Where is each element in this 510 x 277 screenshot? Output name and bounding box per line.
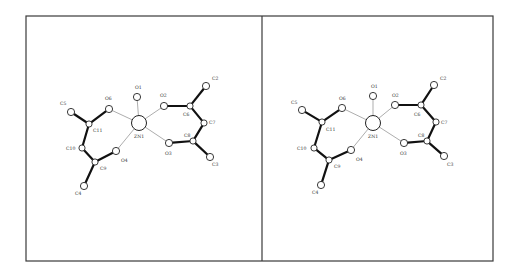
atom-c7 [201,120,207,126]
atom-label-c2: C2 [212,76,219,81]
atom-c11 [319,119,325,125]
covalent-bond-c10-c9 [316,150,326,158]
covalent-bond-o6-c11 [325,110,340,120]
atom-label-c4: C4 [312,190,319,195]
atom-o4 [347,146,354,153]
atom-label-c11: C11 [93,128,102,133]
atom-c11 [86,121,92,127]
covalent-bond-c6-c2 [192,89,204,104]
atom-label-o1: O1 [371,84,378,89]
covalent-bond-c7-c8 [428,125,434,138]
covalent-bond-c9-o4 [332,151,348,158]
atom-c5 [67,108,74,115]
atom-c7 [433,119,439,125]
atom-c2 [430,81,437,88]
atom-label-o6: O6 [339,96,346,101]
atom-o4 [112,147,119,154]
covalent-bond-c9-c4 [85,165,93,183]
atom-label-c5: C5 [60,101,67,106]
atom-label-o1: O1 [135,85,142,90]
covalent-bond-c9-o4 [98,153,113,161]
atom-label-c5: C5 [291,100,298,105]
left-stereo-view: ZN1O1O2O3O4O6C2C3C4C5C6C7C8C9C10C11 [60,76,219,196]
covalent-bond-c11-c10 [315,125,321,145]
coordination-bond-zn1-o4 [118,129,134,148]
covalent-bond-c11-c5 [74,114,86,122]
atom-label-c7: C7 [441,120,448,125]
covalent-bond-c6-c7 [423,107,434,119]
atom-zn1 [366,116,381,131]
atom-label-zn1: ZN1 [134,134,144,139]
atom-label-o3: O3 [165,151,172,156]
atom-label-c10: C10 [66,146,75,151]
atom-label-c9: C9 [100,166,107,171]
coordination-bond-zn1-o1 [137,101,138,116]
atom-label-c4: C4 [75,191,82,196]
atom-label-o4: O4 [356,157,363,162]
atom-label-c8: C8 [418,133,425,138]
covalent-bond-c11-c5 [305,112,319,121]
atom-c4 [80,182,87,189]
atom-o6 [338,104,345,111]
atom-label-c11: C11 [326,127,335,132]
atom-c9 [92,159,98,165]
figure-frame [26,16,493,261]
atom-label-zn1: ZN1 [368,134,378,139]
atom-c3 [440,152,447,159]
atom-o3 [400,139,407,146]
atom-o2 [160,102,167,109]
atom-c10 [311,145,317,151]
atom-label-c3: C3 [447,162,454,167]
atom-o3 [165,139,172,146]
covalent-bond-c9-c4 [322,163,328,182]
covalent-bond-c8-c3 [195,143,207,154]
atom-label-c8: C8 [184,133,191,138]
atom-c5 [298,106,305,113]
coordination-bond-zn1-o6 [345,110,366,120]
coordination-bond-zn1-o2 [145,108,161,119]
atom-c2 [202,82,209,89]
atom-zn1 [132,116,147,131]
covalent-bond-o6-c11 [91,111,106,122]
atom-o6 [105,105,112,112]
atom-c4 [317,181,324,188]
covalent-bond-c6-c7 [192,108,202,120]
atom-label-c6: C6 [414,112,421,117]
coordination-bond-zn1-o4 [353,129,368,147]
atom-label-o6: O6 [105,96,112,101]
atom-label-o2: O2 [160,93,167,98]
atom-c8 [190,138,196,144]
atom-c6 [187,103,193,109]
atom-c3 [206,153,213,160]
atom-c9 [326,157,332,163]
coordination-bond-zn1-o2 [379,107,392,118]
covalent-bond-c6-c2 [423,88,432,102]
atom-o2 [391,101,398,108]
stereo-molecular-diagram: ZN1O1O2O3O4O6C2C3C4C5C6C7C8C9C10C11 ZN1O… [0,0,510,277]
covalent-bond-c7-c8 [195,126,203,139]
atom-label-c2: C2 [440,76,447,81]
covalent-bond-c11-c10 [83,127,88,145]
atom-label-o3: O3 [400,151,407,156]
atom-label-c6: C6 [183,112,190,117]
right-stereo-view: ZN1O1O2O3O4O6C2C3C4C5C6C7C8C9C10C11 [291,76,454,195]
coordination-bond-zn1-o3 [379,127,401,141]
covalent-bond-c8-o3 [408,141,424,142]
atom-label-c7: C7 [209,120,216,125]
atom-label-o4: O4 [121,158,128,163]
atom-c8 [424,138,430,144]
covalent-bond-c10-c9 [84,150,93,159]
atom-o1 [133,93,140,100]
atom-label-c10: C10 [297,146,306,151]
atom-o1 [369,92,376,99]
coordination-bond-zn1-o3 [145,127,166,141]
atom-c10 [79,145,85,151]
coordination-bond-zn1-o6 [112,111,132,120]
covalent-bond-c8-c3 [429,143,441,154]
atom-label-c3: C3 [212,162,219,167]
atom-label-c9: C9 [334,164,341,169]
covalent-bond-c8-o3 [173,141,190,142]
atom-label-o2: O2 [392,93,399,98]
atom-c6 [418,102,424,108]
